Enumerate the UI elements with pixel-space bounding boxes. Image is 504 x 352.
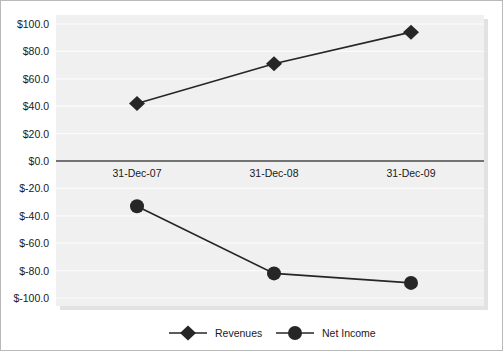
y-tick-label: $-20.0 [19, 182, 49, 194]
x-axis-ticks: 31-Dec-07 31-Dec-08 31-Dec-09 [112, 167, 435, 179]
y-tick-label: $40.0 [23, 100, 49, 112]
x-tick-label: 31-Dec-09 [386, 167, 435, 179]
legend-item-revenues[interactable]: Revenues [169, 326, 262, 341]
y-axis-ticks: $100.0 $80.0 $60.0 $40.0 $20.0 $0.0 $-20… [13, 18, 49, 304]
legend-item-net-income[interactable]: Net Income [276, 326, 376, 340]
y-tick-label: $80.0 [23, 45, 49, 57]
x-tick-label: 31-Dec-08 [249, 167, 298, 179]
legend-revenues-label: Revenues [215, 327, 262, 339]
chart-frame: $100.0 $80.0 $60.0 $40.0 $20.0 $0.0 $-20… [0, 0, 503, 351]
chart-legend: Revenues Net Income [169, 326, 376, 341]
y-tick-label: $0.0 [29, 155, 50, 167]
net-income-point-marker [404, 276, 418, 290]
y-tick-label: $-60.0 [19, 237, 49, 249]
net-income-point-marker [130, 199, 144, 213]
net-income-point-marker [267, 266, 281, 280]
y-tick-label: $20.0 [23, 128, 49, 140]
legend-net-income-circle-icon [288, 326, 302, 340]
y-tick-label: $-100.0 [13, 292, 49, 304]
line-chart: $100.0 $80.0 $60.0 $40.0 $20.0 $0.0 $-20… [1, 1, 504, 352]
y-tick-label: $60.0 [23, 73, 49, 85]
legend-net-income-label: Net Income [322, 327, 376, 339]
y-tick-label: $-80.0 [19, 265, 49, 277]
legend-revenues-diamond-icon [180, 326, 196, 341]
y-tick-label: $100.0 [17, 18, 49, 30]
y-tick-label: $-40.0 [19, 210, 49, 222]
x-tick-label: 31-Dec-07 [112, 167, 161, 179]
